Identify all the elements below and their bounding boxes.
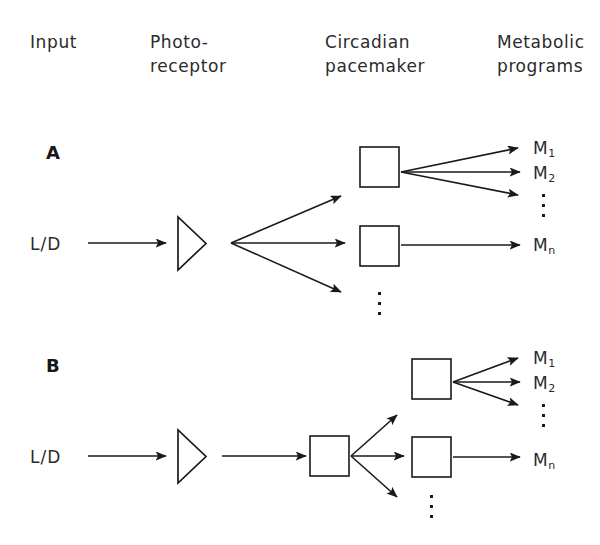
panel-b-output-m2: M2 — [533, 373, 555, 393]
panel-label-a: A — [46, 142, 60, 163]
panel-b-input-label: L/D — [30, 447, 61, 467]
diagram-vector-layer — [0, 0, 600, 545]
panel-a-pacemaker-ellipsis — [377, 292, 381, 315]
panel-b-arrow-master-to-slave-1 — [351, 415, 397, 456]
panel-b-arrow-slave1-to-mdots — [453, 382, 518, 405]
panel-b-output-mn: Mn — [533, 450, 555, 470]
panel-a-pacemaker-square-1 — [360, 147, 399, 187]
panel-a-arrow-pacemaker1-to-m1 — [401, 148, 518, 172]
panel-a-input-label: L/D — [30, 234, 61, 254]
panel-b-pacemaker-ellipsis — [429, 495, 433, 518]
panel-b-photoreceptor-triangle — [178, 430, 206, 483]
panel-a-output-m1: M1 — [533, 138, 555, 158]
panel-b-arrow-slave1-to-m1 — [453, 358, 518, 382]
panel-a-output-m2: M2 — [533, 163, 555, 183]
column-header-input: Input — [30, 30, 77, 54]
panel-label-b: B — [46, 355, 60, 376]
panel-a-output-mn: Mn — [533, 235, 555, 255]
panel-a-pacemaker-square-2 — [360, 226, 399, 266]
panel-a-arrow-pacemaker1-to-mdots — [401, 172, 518, 195]
circadian-organization-figure: Input Photo- receptor Circadian pacemake… — [0, 0, 600, 545]
panel-b-arrow-master-to-slave-n — [351, 456, 397, 497]
panel-b-slave-pacemaker-square-2 — [412, 437, 451, 477]
panel-b-master-pacemaker-square — [310, 436, 349, 476]
panel-a-arrow-receptor-to-pacemaker-n — [231, 243, 341, 292]
panel-b-output-m1: M1 — [533, 348, 555, 368]
panel-b-output-ellipsis — [541, 404, 545, 427]
panel-a-photoreceptor-triangle — [178, 217, 206, 270]
column-header-photoreceptor: Photo- receptor — [150, 30, 227, 78]
panel-a-output-ellipsis — [541, 194, 545, 217]
panel-b-slave-pacemaker-square-1 — [412, 359, 451, 399]
column-header-programs: Metabolic programs — [497, 30, 585, 78]
panel-a-arrow-receptor-to-pacemaker-1 — [231, 196, 341, 243]
column-header-pacemaker: Circadian pacemaker — [325, 30, 425, 78]
